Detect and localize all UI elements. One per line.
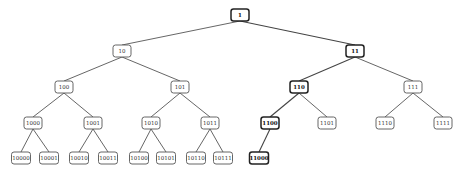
- node-label: 1110: [378, 120, 392, 126]
- tree-node-1100: 1100: [261, 117, 279, 129]
- tree-edge-110-1100: [270, 93, 299, 117]
- node-label: 110: [293, 84, 305, 90]
- node-label: 101: [175, 84, 186, 90]
- node-label: 1001: [86, 120, 100, 126]
- tree-node-10101: 10101: [157, 152, 176, 164]
- tree-node-110: 110: [290, 81, 308, 93]
- tree-node-10011: 10011: [99, 152, 118, 164]
- node-label: 100: [59, 84, 70, 90]
- tree-edge-11-110: [299, 57, 355, 81]
- node-label: 10101: [157, 155, 175, 161]
- tree-edge-101-1011: [180, 93, 210, 117]
- tree-edge-10-100: [64, 57, 122, 81]
- tree-node-111: 111: [404, 81, 422, 93]
- tree-edge-1011-10110: [196, 129, 210, 152]
- tree-node-100: 100: [55, 81, 73, 93]
- tree-node-1010: 1010: [142, 117, 160, 129]
- tree-edge-10-101: [122, 57, 180, 81]
- tree-edge-1-10: [122, 21, 240, 45]
- tree-node-1101: 1101: [318, 117, 336, 129]
- tree-edge-100-1001: [64, 93, 93, 117]
- tree-edge-1000-10000: [21, 129, 33, 152]
- tree-edge-1010-10100: [139, 129, 151, 152]
- node-label: 1010: [144, 120, 158, 126]
- tree-edge-1100-11000: [259, 129, 270, 152]
- tree-edge-111-1111: [413, 93, 443, 117]
- node-label: 10011: [99, 155, 117, 161]
- tree-edge-11-111: [355, 57, 413, 81]
- node-label: 1100: [262, 120, 277, 126]
- tree-node-11000: 11000: [249, 152, 268, 164]
- node-label: 1111: [436, 120, 450, 126]
- node-label: 111: [408, 84, 419, 90]
- tree-edge-100-1000: [33, 93, 64, 117]
- node-label: 10010: [70, 155, 88, 161]
- node-label: 10001: [40, 155, 58, 161]
- tree-node-1000: 1000: [24, 117, 42, 129]
- tree-edge-111-1110: [385, 93, 413, 117]
- node-label: 1101: [320, 120, 334, 126]
- tree-node-10010: 10010: [70, 152, 89, 164]
- tree-node-1110: 1110: [376, 117, 394, 129]
- tree-node-1: 1: [231, 9, 249, 21]
- node-label: 10000: [12, 155, 30, 161]
- tree-node-1001: 1001: [84, 117, 102, 129]
- node-label: 10100: [130, 155, 148, 161]
- node-label: 11000: [249, 155, 268, 161]
- tree-edge-1011-10111: [210, 129, 223, 152]
- node-label: 10111: [214, 155, 232, 161]
- tree-edge-1010-10101: [151, 129, 166, 152]
- node-label: 10: [119, 48, 126, 54]
- tree-edges: [21, 21, 443, 152]
- tree-node-101: 101: [171, 81, 189, 93]
- tree-node-10: 10: [113, 45, 131, 57]
- tree-nodes: 1101110010111011110001001101010111100110…: [12, 9, 453, 164]
- tree-node-10110: 10110: [187, 152, 206, 164]
- tree-edge-1001-10011: [93, 129, 108, 152]
- tree-edge-1-11: [240, 21, 355, 45]
- tree-node-1011: 1011: [201, 117, 219, 129]
- node-label: 10110: [187, 155, 205, 161]
- tree-node-10001: 10001: [40, 152, 59, 164]
- tree-node-1111: 1111: [434, 117, 452, 129]
- node-label: 1: [238, 12, 242, 18]
- tree-edge-1001-10010: [79, 129, 93, 152]
- node-label: 11: [351, 48, 359, 54]
- binary-tree-diagram: 1101110010111011110001001101010111100110…: [0, 0, 462, 175]
- node-label: 1011: [203, 120, 217, 126]
- tree-node-11: 11: [346, 45, 364, 57]
- tree-edge-110-1101: [299, 93, 327, 117]
- tree-node-10100: 10100: [130, 152, 149, 164]
- tree-edge-101-1010: [151, 93, 180, 117]
- tree-node-10000: 10000: [12, 152, 31, 164]
- tree-node-10111: 10111: [214, 152, 233, 164]
- tree-edge-1000-10001: [33, 129, 49, 152]
- node-label: 1000: [26, 120, 40, 126]
